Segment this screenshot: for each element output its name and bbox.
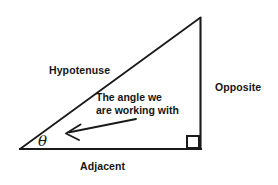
right-angle-marker-icon xyxy=(187,136,199,148)
angle-annotation-line-1: The angle we xyxy=(96,91,179,104)
angle-annotation-line-2: are working with xyxy=(96,104,179,117)
hypotenuse-side-line xyxy=(20,18,201,150)
adjacent-label: Adjacent xyxy=(80,160,125,173)
hypotenuse-label: Hypotenuse xyxy=(49,64,110,77)
theta-angle-label: θ xyxy=(38,132,47,150)
angle-annotation: The angle we are working with xyxy=(96,91,179,117)
trigonometry-diagram: Hypotenuse Opposite Adjacent The angle w… xyxy=(0,0,278,185)
angle-pointer-arrow-icon xyxy=(66,119,136,140)
opposite-label: Opposite xyxy=(215,81,261,94)
